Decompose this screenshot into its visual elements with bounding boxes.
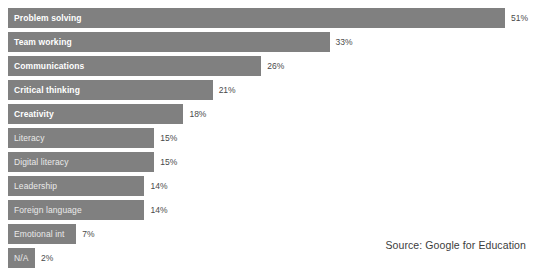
bar-row: Communications26% [8, 56, 530, 76]
bar-value-label: 14% [150, 200, 167, 220]
bar-row: Digital literacy15% [8, 152, 530, 172]
bar-value-label: 33% [336, 32, 353, 52]
bar-category-label: N/A [14, 248, 28, 268]
bar-row: Critical thinking21% [8, 80, 530, 100]
bar-value-label: 7% [82, 224, 94, 244]
bar-value-label: 15% [160, 152, 177, 172]
source-attribution: Source: Google for Education [385, 239, 526, 251]
bar-category-label: Team working [14, 32, 72, 52]
bar-category-label: Literacy [14, 128, 45, 148]
bar-value-label: 18% [189, 104, 206, 124]
bar-row: Literacy15% [8, 128, 530, 148]
bar-row: Leadership14% [8, 176, 530, 196]
bar-category-label: Leadership [14, 176, 57, 196]
bar-value-label: 2% [41, 248, 53, 268]
bar-rect: Creativity [8, 104, 183, 124]
bar-rect: Emotional int [8, 224, 76, 244]
bar-category-label: Critical thinking [14, 80, 80, 100]
bar-row: Team working33% [8, 32, 530, 52]
bar-category-label: Foreign language [14, 200, 82, 220]
bar-row: N/A2% [8, 248, 530, 268]
bar-rect: Foreign language [8, 200, 144, 220]
bar-value-label: 21% [219, 80, 236, 100]
bar-value-label: 51% [511, 8, 528, 28]
bars-plot-area: Problem solving51%Team working33%Communi… [8, 8, 530, 272]
bar-value-label: 14% [150, 176, 167, 196]
bar-row: Foreign language14% [8, 200, 530, 220]
bar-rect: Leadership [8, 176, 144, 196]
bar-rect: Critical thinking [8, 80, 213, 100]
bar-category-label: Digital literacy [14, 152, 69, 172]
bar-category-label: Problem solving [14, 8, 82, 28]
bar-row: Creativity18% [8, 104, 530, 124]
bar-row: Problem solving51% [8, 8, 530, 28]
bar-category-label: Creativity [14, 104, 54, 124]
bar-rect: Digital literacy [8, 152, 154, 172]
bar-rect: Communications [8, 56, 261, 76]
bar-rect: Literacy [8, 128, 154, 148]
bar-category-label: Emotional int [14, 224, 64, 244]
bar-rect: N/A [8, 248, 35, 268]
bar-value-label: 15% [160, 128, 177, 148]
bar-rect: Problem solving [8, 8, 505, 28]
bar-category-label: Communications [14, 56, 84, 76]
bar-value-label: 26% [267, 56, 284, 76]
bar-rect: Team working [8, 32, 330, 52]
